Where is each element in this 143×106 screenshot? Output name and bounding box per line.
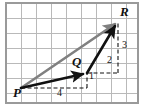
component-label-PQ-y: 1 xyxy=(89,71,94,81)
vector-diagram-figure: P Q R 4 1 2 3 xyxy=(0,0,143,106)
point-label-P: P xyxy=(13,86,21,99)
point-label-Q: Q xyxy=(72,55,81,68)
point-label-R: R xyxy=(120,5,129,18)
component-label-PQ-x: 4 xyxy=(57,88,62,98)
component-label-QR-y: 3 xyxy=(122,40,127,50)
component-label-QR-x: 2 xyxy=(107,55,112,65)
